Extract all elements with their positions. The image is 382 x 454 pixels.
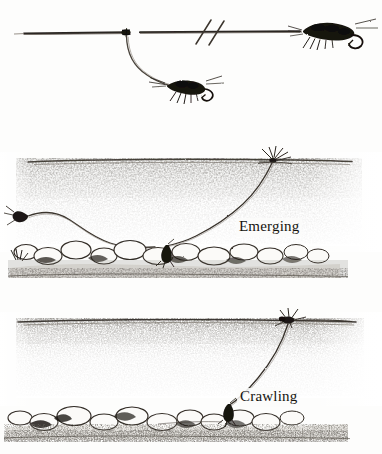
dropper-tippet [127, 36, 170, 85]
crawling-drawing [0, 296, 382, 454]
label-crawling: Crawling [237, 388, 300, 407]
figure-canvas: Emerging Crawling ············ [0, 0, 382, 454]
dropper-fly [149, 76, 224, 104]
caption-smudge: ············ [148, 432, 258, 439]
dropper-rig-drawing [0, 0, 382, 142]
crawling-panel [0, 296, 382, 454]
dropper-rig-panel [0, 0, 382, 142]
leader-assembly [14, 31, 300, 34]
water-column [0, 312, 382, 406]
leader-line [24, 32, 126, 33]
emerging-panel [0, 142, 382, 290]
point-fly [288, 19, 378, 50]
water-column [0, 152, 382, 252]
emerging-drawing [0, 142, 382, 290]
label-emerging: Emerging [236, 218, 302, 237]
